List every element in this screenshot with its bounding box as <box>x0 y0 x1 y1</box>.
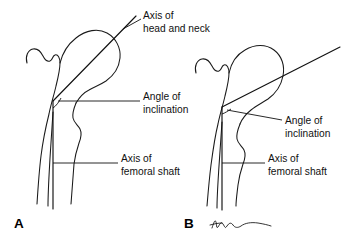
label-axis-head-neck-line2: head and neck <box>143 23 211 34</box>
artist-signature <box>210 221 271 228</box>
label-panel-a-angle-line2: inclination <box>143 104 188 115</box>
panel-a-letter: A <box>14 216 24 231</box>
panel-b-lateral-outline <box>195 59 229 206</box>
panel-a-group: A <box>14 16 141 231</box>
panel-a-medial-neck-outline <box>71 103 81 204</box>
panel-b-head-neck-axis <box>222 47 340 107</box>
panel-a-medial-shaft-outline <box>48 112 53 206</box>
label-panel-a-angle-line1: Angle of <box>143 91 181 102</box>
femur-angle-of-inclination-figure: A Axis of head and neck Angle of inclina… <box>0 0 351 243</box>
panel-b-letter: B <box>184 216 194 231</box>
label-panel-a-shaft-line2: femoral shaft <box>121 166 180 177</box>
panel-b-angle-leader <box>227 110 282 120</box>
label-panel-b-shaft-line2: femoral shaft <box>268 166 327 177</box>
panel-b-medial-shaft-outline <box>217 122 222 208</box>
label-panel-b-angle-line2: inclination <box>285 128 330 139</box>
panel-b-angle-vertex-mark <box>222 109 231 114</box>
label-axis-head-neck-line1: Axis of <box>143 10 174 21</box>
label-panel-b-shaft-line1: Axis of <box>268 153 299 164</box>
label-panel-b-angle-line1: Angle of <box>285 115 323 126</box>
panel-a-labels: Axis of head and neck Angle of inclinati… <box>121 10 211 177</box>
figure-canvas: A Axis of head and neck Angle of inclina… <box>0 0 351 243</box>
panel-b-labels: Angle of inclination Axis of femoral sha… <box>268 115 330 177</box>
panel-a-lateral-outline <box>26 49 60 204</box>
panel-b-medial-neck-outline <box>236 124 245 206</box>
label-panel-a-shaft-line1: Axis of <box>121 153 152 164</box>
